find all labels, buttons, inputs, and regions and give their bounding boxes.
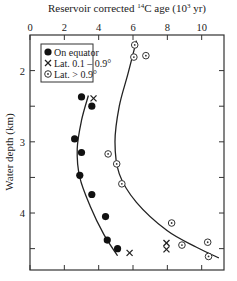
legend-label: Lat. 0.1 – 0.9°: [54, 58, 111, 69]
x-tick-label: 6: [130, 22, 135, 33]
x-tick-label: 0: [27, 22, 32, 33]
chart: Reservoir corrected 14C age (103 yr) 024…: [0, 0, 237, 281]
x-tick-label: 4: [96, 22, 102, 33]
x-tick-label: 8: [165, 22, 170, 33]
series-dotted-circle: [105, 42, 212, 260]
legend-label: Lat. > 0.9°: [54, 69, 97, 80]
series-filled-circle: [71, 93, 121, 252]
y-axis-label: Water depth (km): [3, 113, 16, 191]
x-axis-label: Reservoir corrected 14C age (103 yr): [48, 2, 206, 15]
y-tick-label: 2: [20, 66, 25, 77]
y-tick-label: 3: [20, 137, 25, 148]
fit-curves: [77, 41, 219, 258]
y-tick-label: 4: [20, 208, 26, 219]
x-tick-label: 10: [196, 22, 207, 33]
x-tick-label: 2: [62, 22, 67, 33]
legend: On equatorLat. 0.1 – 0.9°Lat. > 0.9°: [41, 44, 111, 82]
high-lat-fit-curve: [115, 41, 219, 258]
legend-label: On equator: [54, 47, 99, 58]
